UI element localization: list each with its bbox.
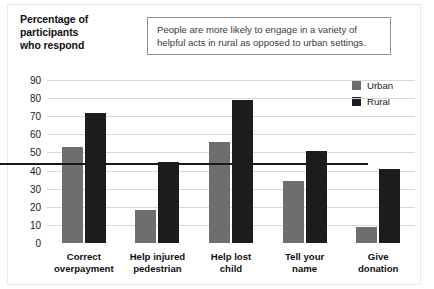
plot-area bbox=[47, 80, 415, 243]
y-axis-title-line-1: participants bbox=[20, 26, 140, 39]
category-label-line: donation bbox=[333, 263, 423, 275]
bar-urban bbox=[135, 210, 156, 243]
y-tick-label-70: 70 bbox=[5, 111, 41, 122]
bar-urban bbox=[62, 147, 83, 243]
bar-group bbox=[341, 80, 415, 243]
callout-box: People are more likely to engage in a va… bbox=[147, 17, 391, 55]
bar-group bbox=[47, 80, 121, 243]
y-tick-label-20: 20 bbox=[5, 201, 41, 212]
bar-urban bbox=[283, 181, 304, 243]
y-tick-label-10: 10 bbox=[5, 219, 41, 230]
bar-rural bbox=[232, 100, 253, 243]
bar-rural bbox=[85, 113, 106, 243]
y-tick-label-50: 50 bbox=[5, 147, 41, 158]
y-axis-ticks: 0102030405060708090 bbox=[5, 80, 41, 243]
bar-group bbox=[268, 80, 342, 243]
y-axis-title-line-2: who respond bbox=[20, 39, 140, 52]
callout-text: People are more likely to engage in a va… bbox=[157, 24, 382, 49]
bar-chart-figure: Percentage ofparticipantswho respond Peo… bbox=[0, 0, 434, 289]
bar-urban bbox=[356, 227, 377, 243]
y-tick-label-30: 30 bbox=[5, 183, 41, 194]
category-label-line: Give bbox=[333, 251, 423, 263]
x-axis-line bbox=[0, 163, 368, 165]
y-axis-title: Percentage ofparticipantswho respond bbox=[20, 13, 140, 53]
bar-rural bbox=[158, 162, 179, 244]
y-tick-label-0: 0 bbox=[5, 238, 41, 249]
bar-rural bbox=[379, 169, 400, 243]
bar-group bbox=[194, 80, 268, 243]
bar-group bbox=[121, 80, 195, 243]
bar-urban bbox=[209, 142, 230, 243]
y-tick-label-40: 40 bbox=[5, 165, 41, 176]
y-axis-title-line-0: Percentage of bbox=[20, 13, 140, 26]
y-tick-label-80: 80 bbox=[5, 93, 41, 104]
y-tick-label-60: 60 bbox=[5, 129, 41, 140]
y-tick-label-90: 90 bbox=[5, 75, 41, 86]
category-label: Givedonation bbox=[333, 251, 423, 274]
